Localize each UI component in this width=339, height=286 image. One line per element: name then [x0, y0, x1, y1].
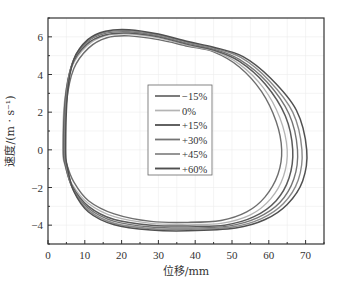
y-axis-title: 速度/(m · s⁻¹) [3, 95, 17, 166]
x-tick-label: 70 [300, 249, 312, 261]
y-tick-label: −2 [31, 182, 43, 194]
y-tick-label: 6 [38, 31, 44, 43]
y-tick-label: −4 [31, 219, 43, 231]
legend-label: +45% [182, 149, 207, 160]
x-tick-label: 30 [153, 249, 165, 261]
x-axis: 010203040506070 [45, 240, 324, 261]
y-tick-label: 2 [38, 106, 44, 118]
x-tick-label: 60 [263, 249, 275, 261]
legend-label: +15% [182, 120, 207, 131]
legend: −15%0%+15%+30%+45%+60% [148, 85, 212, 175]
x-tick-label: 50 [227, 249, 239, 261]
legend-label: +30% [182, 135, 207, 146]
chart: 010203040506070 −4−20246 位移/mm 速度/(m · s… [0, 0, 339, 286]
y-axis: −4−20246 [31, 18, 52, 244]
x-tick-label: 40 [190, 249, 202, 261]
x-tick-label: 10 [79, 249, 91, 261]
legend-label: 0% [182, 106, 196, 117]
legend-label: −15% [182, 91, 207, 102]
x-axis-title: 位移/mm [163, 264, 210, 278]
y-tick-label: 4 [38, 69, 44, 81]
y-tick-label: 0 [38, 144, 44, 156]
x-tick-label: 0 [45, 249, 51, 261]
legend-label: +60% [182, 164, 207, 175]
x-tick-label: 20 [116, 249, 128, 261]
